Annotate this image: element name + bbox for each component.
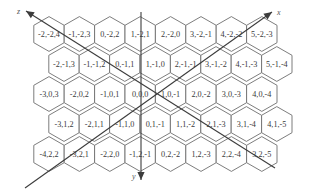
hex-cell: 5,-2,-3 (247, 17, 277, 52)
hex-cell: -1,2,-1 (125, 137, 155, 172)
hex-coordinate-label: 1,-2,1 (131, 30, 150, 39)
y-axis-label: y (131, 172, 136, 181)
hex-coordinate-label: 0,1,-1 (146, 120, 165, 129)
hex-cell: 1,-1,0 (140, 47, 170, 82)
hex-cell: 1,-2,1 (125, 17, 155, 52)
hex-cell: -1,0,1 (95, 77, 125, 112)
hex-coordinate-label: -1,-1,2 (83, 60, 105, 69)
hex-coordinate-label: -2,0,2 (70, 90, 89, 99)
hex-coordinate-label: 1,1,-2 (176, 120, 195, 129)
hex-cell: -2,1,1 (79, 107, 109, 142)
hex-cell: 3,-2,-1 (186, 17, 216, 52)
hex-coordinate-label: 2,2,-4 (222, 150, 241, 159)
hex-cell: 1,0,-1 (155, 77, 185, 112)
hex-cell: 0,2,-2 (155, 137, 185, 172)
hex-coordinate-label: 0,2,-2 (161, 150, 180, 159)
hex-cell: 4,0,-4 (247, 77, 277, 112)
hex-coordinate-label: 2,0,-2 (191, 90, 210, 99)
hex-coordinate-label: -1,1,0 (115, 120, 134, 129)
hex-cell: -3,1,2 (49, 107, 79, 142)
hex-cell: 0,1,-1 (140, 107, 170, 142)
hex-coordinate-label: 0,0,0 (132, 90, 148, 99)
hex-cell: 2,-2,0 (155, 17, 185, 52)
hex-coordinate-label: 3,1,-4 (237, 120, 256, 129)
hex-coordinate-label: 4,-2,-2 (220, 30, 242, 39)
hex-coordinate-label: 4,1,-5 (267, 120, 286, 129)
hex-coordinate-label: 4,-1,-3 (235, 60, 257, 69)
hex-cell: 2,0,-2 (186, 77, 216, 112)
hex-coordinate-label: 1,0,-1 (161, 90, 180, 99)
hex-coordinate-label: 3,-2,-1 (190, 30, 212, 39)
hex-coordinate-label: 1,2,-3 (191, 150, 210, 159)
hex-coordinate-label: 0,-2,2 (100, 30, 119, 39)
hex-cell: 2,2,-4 (216, 137, 246, 172)
hex-coordinate-label: 3,-1,-2 (205, 60, 227, 69)
hex-coordinate-label: 3,2,-5 (252, 150, 271, 159)
hex-cell: 4,1,-5 (262, 107, 292, 142)
hex-cell: 5,-1,-4 (262, 47, 292, 82)
hex-cell: -1,-1,2 (79, 47, 109, 82)
hex-cell: -2,2,0 (95, 137, 125, 172)
hex-coordinate-label: -3,0,3 (39, 90, 58, 99)
hex-cell: 2,-1,-1 (170, 47, 200, 82)
hex-cell: 1,2,-3 (186, 137, 216, 172)
hex-grid-diagram: -2,-2,4-1,-2,30,-2,21,-2,12,-2,03,-2,-14… (0, 0, 311, 192)
hex-coordinate-label: -2,-1,3 (53, 60, 75, 69)
hex-cell: 3,0,-3 (216, 77, 246, 112)
hex-coordinate-label: 1,-1,0 (146, 60, 165, 69)
x-axis-label: x (276, 8, 281, 17)
hex-cell: -2,-2,4 (34, 17, 64, 52)
hex-coordinate-label: 3,0,-3 (222, 90, 241, 99)
z-axis-arrow-icon (26, 11, 35, 18)
hex-cell: -3,0,3 (34, 77, 64, 112)
hex-coordinate-label: 4,0,-4 (252, 90, 271, 99)
y-axis-arrow-icon (137, 172, 144, 180)
hex-coordinate-label: -1,-2,3 (68, 30, 90, 39)
hex-cell: 3,1,-4 (231, 107, 261, 142)
hex-coordinate-label: -4,2,2 (39, 150, 58, 159)
hex-coordinate-label: -1,2,-1 (129, 150, 151, 159)
hex-cell: -1,-2,3 (64, 17, 94, 52)
hex-cell: -2,0,2 (64, 77, 94, 112)
hex-coordinate-label: -3,1,2 (54, 120, 73, 129)
hex-coordinate-label: 2,-2,0 (161, 30, 180, 39)
hex-coordinate-label: 0,-1,1 (115, 60, 134, 69)
hex-coordinate-label: -2,1,1 (85, 120, 104, 129)
hex-cell: 0,-2,2 (95, 17, 125, 52)
hex-cell: 4,-1,-3 (231, 47, 261, 82)
z-axis-label: z (16, 7, 21, 16)
hex-coordinate-label: 2,-1,-1 (175, 60, 197, 69)
hex-coordinate-label: -2,2,0 (100, 150, 119, 159)
hex-cell: -2,-1,3 (49, 47, 79, 82)
hex-coordinate-label: 5,-2,-3 (251, 30, 273, 39)
hex-coordinate-label: 5,-1,-4 (266, 60, 288, 69)
hex-cell: -4,2,2 (34, 137, 64, 172)
hex-cell: 0,-1,1 (110, 47, 140, 82)
hex-coordinate-label: -1,0,1 (100, 90, 119, 99)
